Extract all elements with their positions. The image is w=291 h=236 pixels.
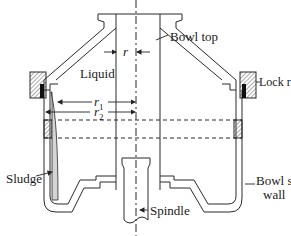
bowl-shell-right [160, 90, 242, 212]
label-lock-ring: Lock ring [259, 76, 291, 88]
label-r2: r2 [94, 105, 104, 122]
label-bowl-top: Bowl top [170, 30, 218, 43]
lock-ring-left-seal [40, 84, 44, 98]
bowl-top-neck [98, 14, 182, 28]
label-bowl-shell-wall-2: wall [263, 188, 285, 201]
lock-ring-right-seal [242, 84, 246, 98]
label-r: r [123, 45, 128, 58]
label-spindle: Spindle [150, 204, 190, 217]
label-bowl-shell-wall-1: Bowl shell [256, 174, 291, 187]
label-sludge: Sludge [6, 172, 42, 185]
wall-band-left [44, 120, 52, 138]
centrifuge-diagram [0, 0, 291, 236]
sludge-layer [51, 92, 58, 200]
label-liquid: Liquid [80, 67, 115, 80]
wall-band-right [234, 120, 242, 138]
